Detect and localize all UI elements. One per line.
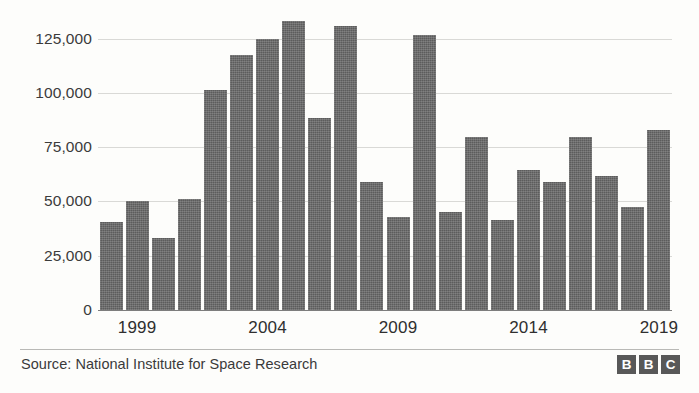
bar [256, 39, 279, 310]
bar [178, 199, 201, 310]
x-axis-tick-label: 2014 [509, 318, 548, 338]
bar [334, 26, 357, 310]
bbc-logo-block: C [661, 355, 680, 374]
bar [152, 238, 175, 310]
bbc-logo-block: B [639, 355, 658, 374]
bar [595, 176, 618, 310]
bar [517, 170, 540, 310]
x-axis-tick-label: 2019 [640, 318, 679, 338]
bbc-logo: BBC [617, 355, 680, 374]
bar [204, 90, 227, 310]
bar [387, 217, 410, 310]
bar [621, 207, 644, 310]
bar [413, 35, 436, 310]
bar [360, 182, 383, 310]
bar [230, 55, 253, 310]
x-axis-tick-labels: 19992004200920142019 [0, 312, 699, 346]
bbc-logo-block: B [617, 355, 636, 374]
bar [126, 201, 149, 310]
bar [465, 137, 488, 310]
bar [282, 21, 305, 310]
bar-series [0, 0, 699, 340]
footer-divider [20, 349, 679, 350]
bar-chart-figure: 025,00050,00075,000100,000125,000 199920… [0, 0, 699, 393]
bar [491, 220, 514, 310]
x-axis-tick-label: 2004 [248, 318, 287, 338]
bar [543, 182, 566, 310]
bar [439, 212, 462, 310]
bar [569, 137, 592, 310]
x-axis-tick-label: 1999 [118, 318, 157, 338]
bar [308, 118, 331, 310]
bar [100, 222, 123, 310]
source-label: Source: National Institute for Space Res… [21, 356, 317, 372]
bar [647, 130, 670, 310]
x-axis-tick-label: 2009 [379, 318, 418, 338]
